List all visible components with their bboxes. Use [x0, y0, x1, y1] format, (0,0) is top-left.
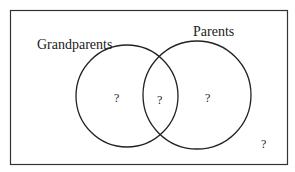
venn-diagram: Grandparents Parents ? ? ? ? — [0, 0, 295, 172]
region-grandparents-only: ? — [114, 91, 119, 105]
grandparents-circle — [76, 45, 178, 147]
parents-label: Parents — [193, 24, 234, 39]
region-intersection: ? — [157, 93, 162, 107]
region-parents-only: ? — [205, 91, 210, 105]
region-outside: ? — [261, 137, 266, 151]
grandparents-label: Grandparents — [37, 37, 112, 52]
